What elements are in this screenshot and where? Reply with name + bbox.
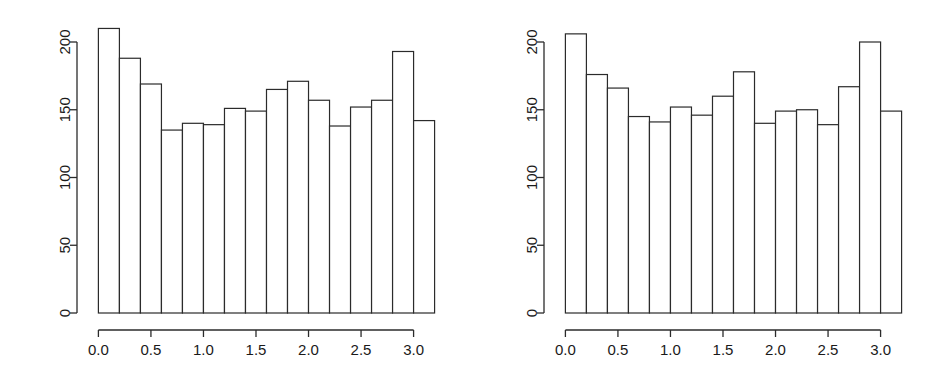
bars-group: [98, 28, 434, 313]
x-axis-tick-label: 2.5: [818, 341, 839, 358]
histogram-bar: [839, 87, 860, 313]
y-axis-tick-label: 150: [523, 97, 540, 122]
left-histogram-plot: 0501001502000.00.51.01.52.02.53.0: [56, 28, 435, 358]
y-axis-tick-label: 50: [523, 237, 540, 254]
histogram-bar: [309, 100, 330, 313]
x-axis-tick-label: 2.5: [351, 341, 372, 358]
histogram-bar: [628, 117, 649, 313]
x-axis-tick-label: 1.0: [193, 341, 214, 358]
histogram-bar: [860, 42, 881, 313]
y-axis-tick-label: 200: [56, 29, 73, 54]
y-axis: 050100150200: [523, 29, 545, 317]
x-axis: 0.00.51.01.52.02.53.0: [555, 330, 891, 358]
x-axis-tick-label: 0.5: [141, 341, 162, 358]
y-axis-tick-label: 150: [56, 97, 73, 122]
histogram-bar: [203, 125, 224, 313]
histogram-bar: [161, 130, 182, 313]
x-axis: 0.00.51.01.52.02.53.0: [88, 330, 424, 358]
histogram-bar: [797, 110, 818, 313]
histogram-bar: [670, 107, 691, 313]
right-histogram-plot: 0501001502000.00.51.01.52.02.53.0: [523, 29, 902, 358]
histogram-bar: [330, 126, 351, 313]
x-axis-tick-label: 0.5: [608, 341, 629, 358]
chart-panel-right: 0501001502000.00.51.01.52.02.53.0: [467, 0, 934, 388]
histogram-bar: [224, 108, 245, 313]
y-axis-tick-label: 50: [56, 237, 73, 254]
histogram-bar: [776, 111, 797, 313]
histogram-bar: [267, 89, 288, 313]
histogram-bar: [245, 111, 266, 313]
histogram-bar: [119, 58, 140, 313]
histogram-figure: 0501001502000.00.51.01.52.02.53.0 050100…: [0, 0, 935, 388]
y-axis-tick-label: 100: [56, 165, 73, 190]
histogram-bar: [372, 100, 393, 313]
histogram-bar: [734, 72, 755, 313]
x-axis-tick-label: 1.5: [713, 341, 734, 358]
x-axis-tick-label: 2.0: [765, 341, 786, 358]
histogram-bar: [691, 115, 712, 313]
y-axis-tick-label: 0: [56, 309, 73, 317]
y-axis-tick-label: 100: [523, 165, 540, 190]
histogram-bar: [565, 34, 586, 313]
histogram-bar: [712, 96, 733, 313]
x-axis-tick-label: 0.0: [88, 341, 109, 358]
x-axis-tick-label: 1.5: [246, 341, 267, 358]
histogram-bar: [755, 123, 776, 313]
histogram-bar: [881, 111, 902, 313]
x-axis-tick-label: 1.0: [660, 341, 681, 358]
histogram-bar: [98, 28, 119, 313]
histogram-bar: [140, 84, 161, 313]
y-axis-tick-label: 200: [523, 29, 540, 54]
right-histogram-svg: 0501001502000.00.51.01.52.02.53.0: [467, 0, 934, 388]
x-axis-tick-label: 3.0: [870, 341, 891, 358]
chart-panel-left: 0501001502000.00.51.01.52.02.53.0: [0, 0, 467, 388]
bars-group: [565, 34, 901, 313]
histogram-bar: [607, 88, 628, 313]
x-axis-tick-label: 3.0: [403, 341, 424, 358]
histogram-bar: [288, 81, 309, 313]
y-axis-tick-label: 0: [523, 309, 540, 317]
histogram-bar: [586, 75, 607, 313]
histogram-bar: [818, 125, 839, 313]
left-histogram-svg: 0501001502000.00.51.01.52.02.53.0: [0, 0, 467, 388]
histogram-bar: [351, 107, 372, 313]
histogram-bar: [414, 121, 435, 313]
histogram-bar: [182, 123, 203, 313]
y-axis: 050100150200: [56, 29, 78, 317]
histogram-bar: [649, 122, 670, 313]
x-axis-tick-label: 0.0: [555, 341, 576, 358]
histogram-bar: [393, 51, 414, 313]
x-axis-tick-label: 2.0: [298, 341, 319, 358]
